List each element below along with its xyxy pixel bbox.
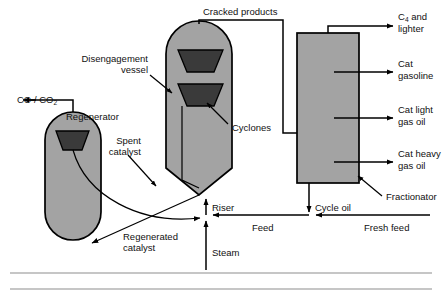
cat-heavy-gas-oil-label-line1: Cat heavy [398, 148, 441, 159]
regenerated-catalyst-label-line2: catalyst [123, 242, 156, 253]
feed-label: Feed [252, 222, 274, 233]
fresh-feed-label: Fresh feed [364, 222, 409, 233]
fcc-process-diagram: CO / CO2 Regenerator Disengagement vesse… [0, 0, 442, 294]
cyclones-label: Cyclones [232, 122, 271, 133]
fractionator-label: Fractionator [386, 191, 437, 202]
spent-catalyst-leader [128, 155, 156, 186]
regenerator-label: Regenerator [66, 111, 119, 122]
spent-catalyst-label-line1: Spent [116, 135, 141, 146]
cat-heavy-gas-oil-label-line2: gas oil [398, 160, 425, 171]
diagram-canvas: CO / CO2 Regenerator Disengagement vesse… [0, 0, 442, 294]
c4-and-lighter-label-line1: C4 and [398, 11, 427, 23]
fractionator-leader [358, 176, 382, 196]
disengagement-vessel-label-line1: Disengagement [81, 53, 148, 64]
cat-light-gas-oil-label-line2: gas oil [398, 116, 425, 127]
cat-light-gas-oil-label-line1: Cat light [398, 104, 433, 115]
disengagement-vessel [166, 21, 232, 195]
disengagement-vessel-label-line2: vessel [121, 64, 148, 75]
cat-gasoline-label-line2: gasoline [398, 70, 433, 81]
cycle-oil-label: Cycle oil [315, 202, 351, 213]
riser-label: Riser [212, 202, 234, 213]
fractionator-column [297, 33, 359, 183]
spent-catalyst-label-line2: catalyst [109, 146, 142, 157]
c4-and-lighter-label-line2: lighter [398, 23, 424, 34]
c4-and-lighter-pipe [328, 26, 393, 33]
cracked-products-label: Cracked products [203, 6, 278, 17]
regenerated-catalyst-label-line1: Regenerated [123, 231, 178, 242]
cat-gasoline-label-line1: Cat [398, 58, 413, 69]
steam-label: Steam [212, 247, 240, 258]
co-co2-label: CO / CO2 [17, 94, 57, 106]
